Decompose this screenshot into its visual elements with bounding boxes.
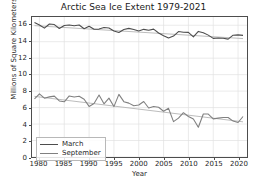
legend-item-september[interactable]: September	[40, 149, 101, 158]
x-axis-label: Year	[31, 170, 248, 178]
x-tick-label: 1990	[74, 160, 104, 168]
x-tick-label: 2015	[199, 160, 229, 168]
x-tick-mark	[164, 158, 165, 160]
x-tick-label: 2000	[124, 160, 154, 168]
x-tick-mark	[239, 158, 240, 160]
legend-swatch-icon	[40, 153, 58, 154]
x-tick-mark	[114, 158, 115, 160]
x-tick-label: 2005	[149, 160, 179, 168]
x-tick-mark	[214, 158, 215, 160]
chart-title: Arctic Sea Ice Extent 1979-2021	[0, 2, 267, 12]
y-tick-label: 0	[3, 154, 27, 162]
y-axis-label: Millions of Square Kilometers	[10, 0, 18, 114]
x-tick-label: 1985	[49, 160, 79, 168]
x-tick-mark	[139, 158, 140, 160]
x-tick-label: 2010	[174, 160, 204, 168]
y-tick-mark	[29, 158, 31, 159]
y-tick-label: 2	[3, 137, 27, 145]
figure-canvas: Arctic Sea Ice Extent 1979-2021 02468101…	[0, 0, 267, 181]
x-tick-label: 1995	[99, 160, 129, 168]
x-tick-mark	[189, 158, 190, 160]
y-tick-label: 4	[3, 121, 27, 129]
legend-swatch-icon	[40, 144, 58, 145]
legend-label: March	[62, 140, 83, 149]
x-tick-label: 1980	[24, 160, 54, 168]
x-tick-label: 2020	[224, 160, 254, 168]
chart-legend[interactable]: MarchSeptember	[36, 137, 106, 161]
legend-label: September	[62, 149, 101, 158]
legend-item-march[interactable]: March	[40, 140, 101, 149]
plot-svg	[32, 17, 247, 157]
